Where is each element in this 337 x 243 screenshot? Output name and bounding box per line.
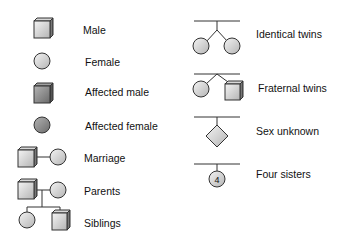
label-parents: Parents [84, 186, 120, 197]
parents-siblings-symbol-icon [18, 179, 70, 230]
label-affected-female: Affected female [85, 121, 158, 132]
male-square-icon [34, 18, 53, 38]
female-circle-icon [34, 53, 50, 69]
label-marriage: Marriage [84, 153, 125, 164]
label-siblings: Siblings [84, 218, 121, 229]
label-fraternal-twins: Fraternal twins [258, 83, 327, 94]
affected-female-circle-icon [34, 117, 50, 133]
sex-unknown-diamond-icon [194, 117, 240, 147]
label-affected-male: Affected male [85, 87, 149, 98]
affected-male-square-icon [34, 83, 53, 103]
label-sex-unknown: Sex unknown [256, 126, 319, 137]
count-number: 4 [214, 175, 219, 185]
marriage-symbol-icon [18, 147, 66, 167]
label-identical-twins: Identical twins [256, 29, 322, 40]
label-male: Male [83, 25, 106, 36]
label-female: Female [85, 57, 120, 68]
fraternal-twins-symbol-icon [193, 74, 243, 100]
label-four-sisters: Four sisters [256, 169, 311, 180]
identical-twins-symbol-icon [193, 21, 240, 54]
